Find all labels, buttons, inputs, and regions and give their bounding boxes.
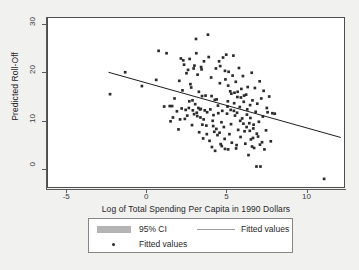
data-point <box>271 112 274 115</box>
data-point <box>190 86 193 89</box>
data-point <box>252 123 255 126</box>
data-point <box>191 124 194 127</box>
data-point <box>203 109 206 112</box>
data-point <box>216 134 219 137</box>
data-point <box>235 144 238 147</box>
data-point <box>239 119 242 122</box>
data-point <box>210 95 213 98</box>
data-point <box>187 69 190 72</box>
data-point <box>172 116 175 119</box>
data-point <box>230 123 233 126</box>
data-point <box>250 71 253 74</box>
data-point <box>213 99 216 102</box>
data-point <box>185 72 188 75</box>
data-point <box>241 117 244 120</box>
data-point <box>273 112 276 115</box>
data-point <box>165 52 168 55</box>
data-point <box>231 74 234 77</box>
data-point <box>224 70 227 73</box>
data-point <box>252 137 255 140</box>
data-point <box>198 90 201 93</box>
data-point <box>163 105 166 108</box>
y-axis-tick-label: 0 <box>29 162 39 166</box>
data-point <box>219 82 222 85</box>
data-point <box>191 109 194 112</box>
data-point <box>207 33 210 36</box>
x-axis-title: Log of Total Spending Per Capita in 1990… <box>47 204 345 214</box>
legend-label-fitted-line: Fitted values <box>241 224 289 234</box>
data-point <box>246 86 249 89</box>
data-point <box>180 57 183 60</box>
data-point <box>177 128 180 131</box>
data-point <box>233 91 236 94</box>
data-point <box>141 85 144 88</box>
data-point <box>189 83 192 86</box>
data-point <box>109 93 112 96</box>
data-point <box>227 84 230 87</box>
data-point <box>218 131 221 134</box>
data-point <box>233 109 236 112</box>
data-point <box>248 129 251 132</box>
data-point <box>194 103 197 106</box>
data-point <box>215 67 218 70</box>
data-point <box>202 137 205 140</box>
data-point <box>176 110 179 113</box>
data-point <box>268 95 271 98</box>
x-axis-tick-label: 0 <box>134 193 158 201</box>
data-point <box>215 128 218 131</box>
figure-canvas: Predicted Roll-Off 0102030 -50510 Log of… <box>0 0 359 270</box>
y-axis-tick-label: 30 <box>29 17 39 26</box>
data-point <box>200 66 203 69</box>
data-point <box>242 100 245 103</box>
data-point <box>256 102 259 105</box>
data-point <box>226 112 229 115</box>
data-point <box>208 139 211 142</box>
data-point <box>229 90 232 93</box>
data-point <box>124 71 127 74</box>
data-point <box>248 122 251 125</box>
data-point <box>236 96 239 99</box>
data-point <box>251 99 254 102</box>
data-point <box>191 99 194 102</box>
data-point <box>242 122 245 125</box>
data-point <box>217 112 220 115</box>
plot-area <box>47 17 345 188</box>
data-point <box>188 100 191 103</box>
data-point <box>218 60 221 63</box>
data-point <box>224 78 227 81</box>
data-point <box>187 107 190 110</box>
data-point <box>249 117 252 120</box>
data-point <box>255 132 258 135</box>
data-point <box>220 121 223 124</box>
data-point <box>236 90 239 93</box>
data-point <box>192 67 195 70</box>
data-point <box>211 146 214 149</box>
x-axis-tick-label: 5 <box>214 193 238 201</box>
data-point <box>173 97 176 100</box>
data-point <box>209 108 212 111</box>
data-point <box>239 136 242 139</box>
data-point <box>237 129 240 132</box>
data-point <box>238 106 241 109</box>
data-point <box>249 104 252 107</box>
data-point <box>252 127 255 130</box>
data-point <box>227 148 230 151</box>
data-point <box>246 113 249 116</box>
data-point <box>238 67 241 70</box>
data-point <box>205 133 208 136</box>
data-point <box>212 114 215 117</box>
data-point <box>230 92 233 95</box>
data-point <box>184 109 187 112</box>
data-point <box>195 52 198 55</box>
data-point <box>247 154 250 157</box>
data-point <box>222 56 225 59</box>
data-point <box>202 118 205 121</box>
data-point <box>213 130 216 133</box>
data-point <box>236 111 239 114</box>
data-point <box>261 141 264 144</box>
y-axis-title: Predicted Roll-Off <box>10 52 20 121</box>
data-point <box>201 95 204 98</box>
x-axis-tick-label: 10 <box>295 193 319 201</box>
data-point <box>257 135 260 138</box>
legend-item-fitted-line: Fitted values <box>197 222 289 236</box>
